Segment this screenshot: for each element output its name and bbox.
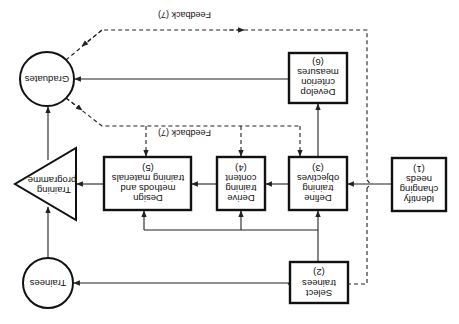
feedback-upper-label: Feedback (7) (158, 10, 211, 20)
node-select-trainees: Select trainees (2) (290, 262, 348, 303)
svg-text:(6): (6) (312, 57, 324, 68)
feedback-lower-label: Feedback (7) (158, 128, 211, 138)
feedback-lower-arrow-diag (66, 98, 82, 110)
node-derive-training-content: Derive training content (4) (217, 157, 265, 210)
node-identify-changing-needs: Identify changing needs (1) (392, 158, 446, 211)
svg-text:(4): (4) (235, 163, 247, 174)
svg-text:Graduates: Graduates (25, 74, 70, 85)
node-trainees: Trainees (23, 258, 73, 308)
svg-text:(1): (1) (413, 164, 425, 175)
node-training-programme: Training programme (15, 148, 76, 220)
svg-text:trainees: trainees (302, 278, 336, 289)
feedback-lower-line (66, 98, 300, 126)
svg-text:Trainees: Trainees (29, 278, 66, 289)
svg-text:(3): (3) (312, 163, 324, 174)
node-define-training-objectives: Define training objectives (3) (289, 157, 347, 210)
training-system-diagram: Feedback (7) Feedback (7) Identify chang… (0, 0, 459, 324)
svg-text:(2): (2) (313, 267, 325, 278)
feedback-upper-arrow-diag (82, 30, 102, 46)
node-design-methods-materials: Design methods and training materials (5… (104, 157, 191, 210)
svg-text:(5): (5) (142, 163, 154, 174)
node-graduates: Graduates (20, 52, 74, 106)
svg-text:programme: programme (28, 175, 77, 186)
node-develop-criterion-measures: Develop criterion measures (6) (289, 53, 347, 103)
